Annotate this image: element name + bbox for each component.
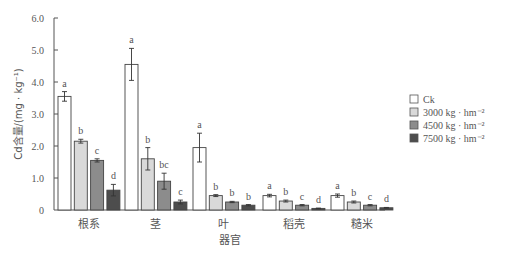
significance-letter: b [78,125,83,136]
bar [226,202,239,210]
significance-letter: a [62,78,67,89]
significance-letter: b [246,191,251,202]
category-label: 茎 [150,218,161,231]
bar [263,196,276,210]
legend-swatch [410,95,418,103]
bars: abcd根系abbcc茎abbb叶abcd稻壳abcd糙米 [58,34,393,231]
bar-group: abbb叶 [193,119,255,231]
significance-letter: c [178,186,183,197]
bar-chart: 01.02.03.04.05.06.0 abcd根系abbcc茎abbb叶abc… [0,0,505,257]
legend-swatch [410,121,418,129]
bar [209,196,222,210]
significance-letter: c [300,191,305,202]
significance-letter: b [145,134,150,145]
significance-letter: b [351,187,356,198]
significance-letter: b [283,186,288,197]
significance-letter: b [230,187,235,198]
legend-label: Ck [423,94,435,105]
y-tick-label: 2.0 [32,141,45,152]
bar [91,160,104,210]
y-tick-label: 0 [39,205,44,216]
significance-letter: c [95,145,100,156]
y-axis-label: Cd含量/(mg · kg⁻¹) [12,68,24,160]
significance-letter: b [213,181,218,192]
bar [125,64,138,210]
bar-group: abbcc茎 [125,34,187,231]
significance-letter: d [316,194,321,205]
significance-letter: a [197,119,202,130]
bar-group: abcd糙米 [331,180,393,231]
y-tick-label: 1.0 [32,173,45,184]
significance-letter: c [368,191,373,202]
y-tick-label: 5.0 [32,45,45,56]
legend-swatch [410,134,418,142]
legend-label: 3000 kg · hm⁻² [423,107,485,118]
y-tick-label: 4.0 [32,77,45,88]
significance-letter: a [335,180,340,191]
legend: Ck3000 kg · hm⁻²4500 kg · hm⁻²7500 kg · … [410,94,485,144]
bar-group: abcd根系 [58,78,120,231]
x-axis-label: 器官 [219,233,241,247]
category-label: 叶 [218,218,229,231]
legend-label: 7500 kg · hm⁻² [423,133,485,144]
significance-letter: a [267,180,272,191]
significance-letter: a [129,34,134,45]
significance-letter: d [384,193,389,204]
legend-label: 4500 kg · hm⁻² [423,120,485,131]
category-label: 糙米 [351,217,373,231]
category-label: 稻壳 [283,217,305,231]
category-label: 根系 [78,217,100,231]
bar-group: abcd稻壳 [263,180,325,231]
bar [331,196,344,210]
legend-swatch [410,108,418,116]
y-tick-label: 3.0 [32,109,45,120]
significance-letter: d [111,170,116,181]
bar [58,96,71,210]
significance-letter: bc [159,159,169,170]
y-tick-label: 6.0 [32,13,45,24]
bar [74,141,87,210]
